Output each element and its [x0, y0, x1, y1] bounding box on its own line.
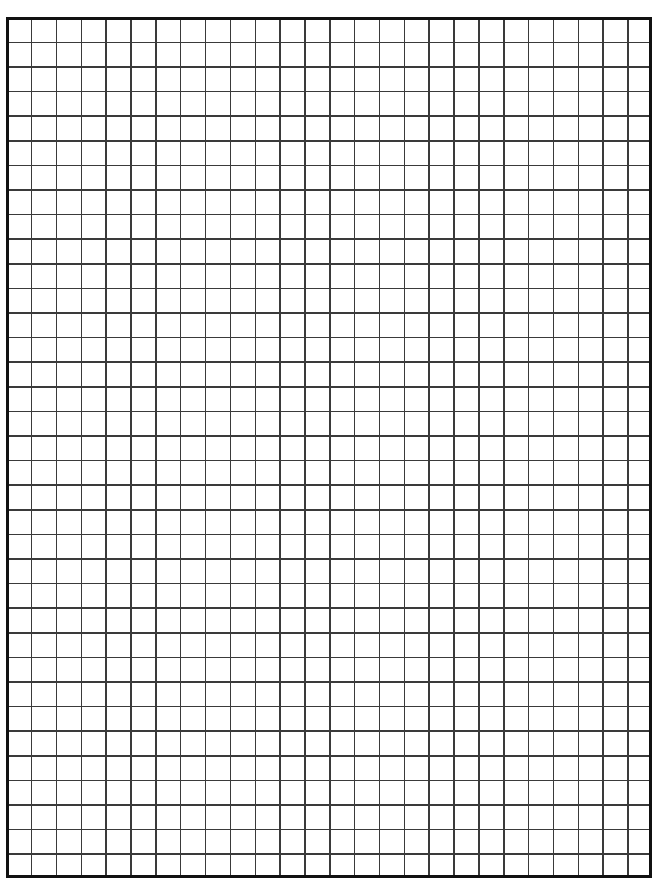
graph-paper-sheet	[6, 17, 652, 878]
page-canvas: Graph Paper	[0, 0, 661, 887]
grid-outer-border	[6, 17, 652, 878]
grid-lines	[6, 17, 652, 878]
